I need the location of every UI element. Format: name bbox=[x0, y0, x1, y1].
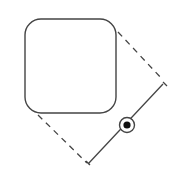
rounded-square-shape[interactable] bbox=[25, 19, 116, 113]
handle-center-dot bbox=[123, 121, 130, 128]
dashed-guide-top bbox=[118, 32, 163, 80]
dimension-tick-top bbox=[163, 82, 167, 86]
rotation-handle[interactable] bbox=[120, 118, 135, 133]
dashed-guide-bottom bbox=[38, 115, 87, 163]
diagram-canvas bbox=[0, 0, 184, 171]
